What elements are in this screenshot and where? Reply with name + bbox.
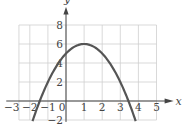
y-axis-label: y [63, 0, 71, 6]
x-tick-label: 1 [81, 101, 88, 113]
y-tick-label: 6 [56, 38, 63, 50]
x-tick-label: −1 [40, 101, 55, 113]
x-tick-label: 5 [153, 101, 160, 113]
y-tick-label: −2 [48, 114, 63, 126]
x-tick-label: 4 [135, 101, 142, 113]
x-tick-label: 3 [117, 101, 124, 113]
y-tick-label: 2 [56, 76, 63, 88]
x-tick-label: 0 [59, 101, 66, 113]
x-tick-label: 2 [99, 101, 106, 113]
x-axis-arrow-icon [165, 98, 174, 103]
tick-labels: −3−2−1012345−22468 [4, 19, 160, 126]
x-tick-label: −3 [4, 101, 19, 113]
parabola-graph: −3−2−1012345−22468 x y [0, 0, 188, 133]
y-axis-arrow-icon [63, 7, 68, 15]
x-axis-label: x [176, 95, 183, 108]
y-tick-label: 8 [56, 19, 63, 31]
